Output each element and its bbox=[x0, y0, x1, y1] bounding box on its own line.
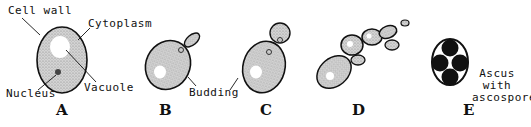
label-cell-wall: Cell wall bbox=[8, 5, 72, 17]
panel-letter-a: A bbox=[56, 103, 68, 118]
label-budding: Budding bbox=[189, 87, 239, 99]
panel-e-ascus bbox=[432, 39, 469, 86]
panel-letter-d: D bbox=[352, 103, 365, 118]
panel-letter-c: C bbox=[260, 103, 272, 118]
panel-d-chain bbox=[310, 20, 409, 95]
panel-c-cell bbox=[230, 23, 291, 98]
label-vacuole: Vacuole bbox=[84, 82, 134, 94]
panel-letter-e: E bbox=[463, 103, 474, 118]
label-nucleus: Nucleus bbox=[6, 88, 56, 100]
panel-letter-b: B bbox=[159, 103, 172, 118]
label-ascus: Ascus with ascospores bbox=[472, 68, 522, 104]
label-cytoplasm: Cytoplasm bbox=[88, 18, 152, 30]
